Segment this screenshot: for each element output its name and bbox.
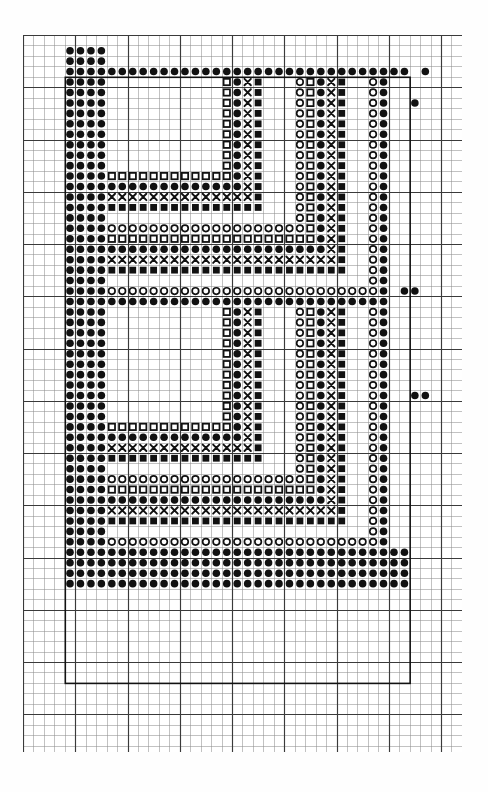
stitch-symbol-canvas — [0, 0, 488, 792]
cross-stitch-chart — [0, 0, 488, 792]
chart-page: Cross-Stitch Chart — Letter E Monogram s… — [0, 0, 488, 792]
